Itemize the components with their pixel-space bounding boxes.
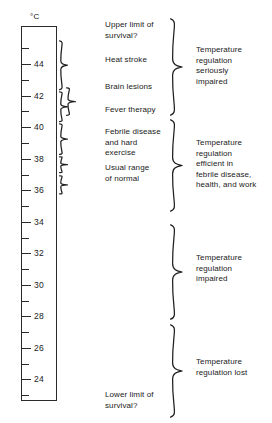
tick-label: 24 xyxy=(34,374,44,384)
effect-label-fever-therapy: Fever therapy xyxy=(105,105,156,116)
tick-major xyxy=(21,316,31,317)
brace-usual-upper xyxy=(59,156,70,173)
temperature-scale-diagram: °C4442403836343230282624Upper limit of s… xyxy=(0,0,272,423)
tick-label: 42 xyxy=(34,91,44,101)
tick-label: 36 xyxy=(34,185,44,195)
brace-heat-stroke xyxy=(59,40,70,90)
brace-fever-therapy-group xyxy=(66,87,78,116)
tick-minor xyxy=(21,364,29,365)
zone-label-lost: Temperature regulation lost xyxy=(196,357,247,378)
tick-minor xyxy=(21,80,29,81)
tick-major xyxy=(21,253,31,254)
zone-label-impaired: Temperature regulation impaired xyxy=(196,253,242,285)
effect-label-febrile-disease: Febrile disease and hard exercise xyxy=(105,127,161,159)
tick-minor xyxy=(21,206,29,207)
tick-label: 40 xyxy=(34,122,44,132)
brace-usual-range xyxy=(59,175,70,195)
tick-label: 30 xyxy=(34,280,44,290)
brace-zone-efficient xyxy=(170,119,185,212)
zone-label-seriously-impaired: Temperature regulation seriously impaire… xyxy=(196,45,242,87)
tick-label: 34 xyxy=(34,217,44,227)
tick-label: 26 xyxy=(34,343,44,353)
tick-label: 32 xyxy=(34,248,44,258)
tick-minor xyxy=(21,238,29,239)
effect-label-upper-limit: Upper limit of survival? xyxy=(105,20,154,41)
tick-major xyxy=(21,96,31,97)
tick-minor xyxy=(21,269,29,270)
tick-major xyxy=(21,159,31,160)
tick-major xyxy=(21,379,31,380)
tick-minor xyxy=(21,395,29,396)
tick-minor xyxy=(21,301,29,302)
tick-label: 44 xyxy=(34,59,44,69)
tick-major xyxy=(21,348,31,349)
tick-major xyxy=(21,190,31,191)
effect-label-brain-lesions: Brain lesions xyxy=(105,82,152,93)
zone-label-efficient: Temperature regulation efficient in febr… xyxy=(196,138,256,191)
tick-label: 38 xyxy=(34,154,44,164)
effect-label-heat-stroke: Heat stroke xyxy=(105,55,147,66)
tick-label: 28 xyxy=(34,311,44,321)
unit-label: °C xyxy=(30,12,39,21)
tick-major xyxy=(21,222,31,223)
brace-zone-seriously-impaired xyxy=(170,18,185,116)
effect-label-lower-limit: Lower limit of survival? xyxy=(105,390,154,411)
tick-minor xyxy=(21,111,29,112)
brace-zone-lost xyxy=(170,324,185,418)
tick-major xyxy=(21,64,31,65)
tick-major xyxy=(21,285,31,286)
tick-minor xyxy=(21,332,29,333)
brace-febrile-disease xyxy=(59,123,70,155)
tick-minor xyxy=(21,48,29,49)
effect-label-usual-range: Usual range of normal xyxy=(105,163,149,184)
tick-minor xyxy=(21,175,29,176)
tick-minor xyxy=(21,143,29,144)
tick-major xyxy=(21,127,31,128)
brace-zone-impaired xyxy=(170,224,185,320)
